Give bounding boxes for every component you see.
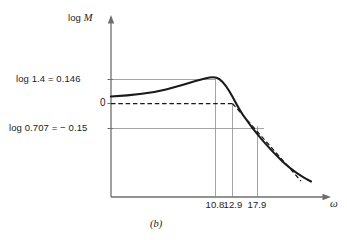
plot-background bbox=[0, 0, 347, 240]
x-tick-label-10-8: 10.8 bbox=[206, 200, 225, 210]
x-tick-label-12-9: 12.9 bbox=[224, 200, 243, 210]
figure-caption-text: (b) bbox=[150, 218, 162, 229]
y-axis-label-prefix: log bbox=[68, 12, 81, 23]
cutoff-value-label: log 0.707 = − 0.15 bbox=[9, 123, 87, 133]
y-axis-label-symbol: M bbox=[84, 12, 93, 23]
bode-magnitude-plot bbox=[0, 0, 347, 240]
y-axis-label: log M bbox=[68, 13, 93, 24]
figure-caption: (b) bbox=[150, 218, 162, 229]
x-axis-label: ω bbox=[330, 198, 338, 209]
peak-value-label: log 1.4 = 0.146 bbox=[16, 74, 81, 84]
x-tick-label-17-9: 17.9 bbox=[248, 200, 267, 210]
origin-zero-label: 0 bbox=[100, 98, 106, 108]
